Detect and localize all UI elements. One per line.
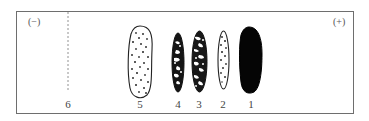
- band-2: [218, 31, 229, 89]
- lane-label-4: 4: [172, 98, 184, 110]
- band-5: [128, 26, 152, 98]
- lane-label-1: 1: [245, 98, 257, 110]
- band-4: [172, 33, 184, 92]
- band-1: [240, 27, 263, 93]
- lane-label-5: 5: [134, 98, 146, 110]
- lane-label-2: 2: [217, 98, 229, 110]
- lane-label-6: 6: [62, 98, 74, 110]
- lane-label-3: 3: [193, 98, 205, 110]
- band-3: [192, 31, 207, 92]
- gel-bands-graphic: [0, 0, 369, 121]
